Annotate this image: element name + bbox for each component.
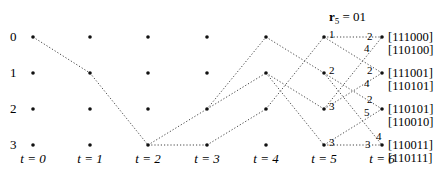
path-metric-label: 3 xyxy=(329,136,335,148)
time-label: t = 5 xyxy=(311,151,337,166)
trellis-edge xyxy=(266,37,324,73)
branch-metric-label: 3 xyxy=(365,138,371,150)
codeword-label: [110011] xyxy=(388,138,433,152)
trellis-diagram: r5 = 01 0123t = 0t = 1t = 2t = 3t = 4t =… xyxy=(0,0,441,180)
trellis-nodes xyxy=(31,35,384,147)
codeword-label: [110010] xyxy=(388,115,433,129)
trellis-node xyxy=(264,143,268,147)
trellis-node xyxy=(31,35,35,39)
state-label: 1 xyxy=(10,65,17,80)
codeword-label: [110101] xyxy=(388,79,433,93)
trellis-edge xyxy=(266,73,324,145)
trellis-node xyxy=(264,35,268,39)
trellis-node xyxy=(146,107,150,111)
trellis-node xyxy=(380,71,384,75)
codeword-label: [110100] xyxy=(388,43,433,57)
time-label: t = 2 xyxy=(135,151,161,166)
codeword-label: [111000] xyxy=(388,30,433,44)
codeword-label: [111001] xyxy=(388,66,433,80)
trellis-edge xyxy=(266,73,324,109)
trellis-node xyxy=(205,71,209,75)
trellis-node xyxy=(264,71,268,75)
trellis-node xyxy=(146,35,150,39)
trellis-edge xyxy=(207,37,266,109)
trellis-node xyxy=(31,71,35,75)
branch-metric-label: 2 xyxy=(367,64,373,76)
time-label: t = 4 xyxy=(253,151,279,166)
state-label: 0 xyxy=(10,29,17,44)
trellis-edge xyxy=(207,109,266,145)
branch-metric-label: 4 xyxy=(364,77,370,89)
trellis-node xyxy=(322,35,326,39)
trellis-edge xyxy=(33,37,90,73)
time-label: t = 0 xyxy=(20,151,46,166)
state-label: 2 xyxy=(10,101,17,116)
trellis-edge xyxy=(266,37,324,109)
trellis-node xyxy=(31,143,35,147)
path-metric-label: 1 xyxy=(329,28,335,40)
path-metric-label: 2 xyxy=(329,64,335,76)
trellis-node xyxy=(380,35,384,39)
branch-metric-label: 5 xyxy=(364,106,370,118)
trellis-labels: r5 = 01 0123t = 0t = 1t = 2t = 3t = 4t =… xyxy=(10,9,433,166)
branch-metric-label: 2 xyxy=(367,93,373,105)
codeword-label: [110101] xyxy=(388,102,433,116)
trellis-node xyxy=(322,71,326,75)
trellis-node xyxy=(322,143,326,147)
trellis-node xyxy=(322,107,326,111)
trellis-node xyxy=(205,143,209,147)
trellis-node xyxy=(380,107,384,111)
trellis-node xyxy=(88,143,92,147)
trellis-node xyxy=(146,71,150,75)
received-symbol-label: r5 = 01 xyxy=(329,9,366,26)
trellis-node xyxy=(380,143,384,147)
branch-metric-label: 4 xyxy=(364,42,370,54)
trellis-edge xyxy=(207,73,266,109)
codeword-label: [110111] xyxy=(388,151,432,165)
state-label: 3 xyxy=(10,137,17,152)
trellis-node xyxy=(31,107,35,111)
branch-metric-label: 2 xyxy=(367,30,373,42)
trellis-node xyxy=(264,107,268,111)
trellis-node xyxy=(88,107,92,111)
trellis-node xyxy=(88,35,92,39)
trellis-edge xyxy=(90,73,148,145)
trellis-node xyxy=(146,143,150,147)
time-label: t = 3 xyxy=(194,151,220,166)
path-metric-label: 3 xyxy=(329,100,335,112)
branch-metric-label: 4 xyxy=(376,130,382,142)
time-label: t = 1 xyxy=(77,151,102,166)
trellis-edges xyxy=(33,37,382,145)
trellis-edge xyxy=(148,109,207,145)
trellis-node xyxy=(88,71,92,75)
trellis-node xyxy=(205,107,209,111)
trellis-node xyxy=(205,35,209,39)
